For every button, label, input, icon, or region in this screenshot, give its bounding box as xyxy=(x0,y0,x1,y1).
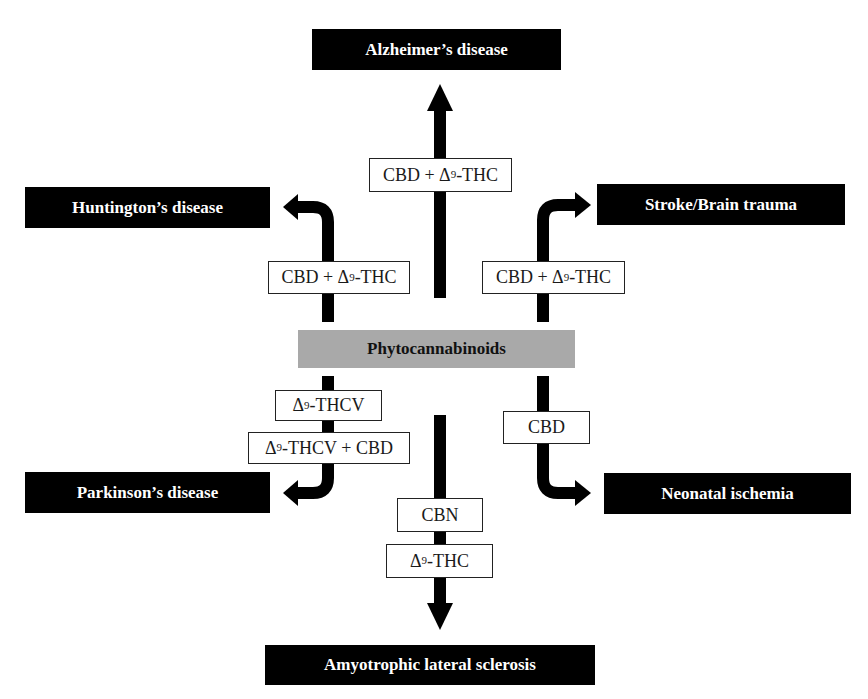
label-text: -THCV xyxy=(310,395,365,416)
arrow-huntingtons-icon xyxy=(283,194,328,322)
label-superscript: 9 xyxy=(277,441,283,453)
label-huntingtons-compound: CBD + Δ9-THC xyxy=(268,261,410,294)
label-text: -THC xyxy=(569,267,611,288)
label-text: Δ xyxy=(265,438,277,459)
label-text: -THCV + CBD xyxy=(282,438,393,459)
label-superscript: 9 xyxy=(564,271,570,283)
label-alzheimers-compound: CBD + Δ9-THC xyxy=(369,158,512,192)
label-text: -THC xyxy=(355,267,397,288)
label-text: CBD + Δ xyxy=(281,267,349,288)
label-superscript: 9 xyxy=(304,399,310,411)
arrow-stroke-icon xyxy=(543,192,591,322)
label-stroke-compound: CBD + Δ9-THC xyxy=(482,261,625,294)
label-text: Δ xyxy=(410,551,422,572)
disease-huntingtons: Huntington’s disease xyxy=(25,187,270,228)
label-text: CBD + Δ xyxy=(496,267,564,288)
disease-alzheimers: Alzheimer’s disease xyxy=(312,29,561,70)
label-text: -THC xyxy=(456,165,498,186)
label-superscript: 9 xyxy=(451,168,457,180)
label-text: CBD + Δ xyxy=(383,165,451,186)
label-als-compound-1: CBN xyxy=(397,498,483,532)
disease-neonatal: Neonatal ischemia xyxy=(604,473,851,514)
label-neonatal-compound: CBD xyxy=(503,411,590,444)
phytocannabinoid-diagram: Alzheimer’s disease Huntington’s disease… xyxy=(0,0,868,699)
center-phytocannabinoids: Phytocannabinoids xyxy=(298,330,575,368)
label-superscript: 9 xyxy=(349,271,355,283)
label-text: CBD xyxy=(528,417,565,438)
label-parkinsons-compound-2: Δ9-THCV + CBD xyxy=(248,432,410,464)
disease-stroke: Stroke/Brain trauma xyxy=(597,184,845,225)
disease-als: Amyotrophic lateral sclerosis xyxy=(265,645,595,685)
label-parkinsons-compound-1: Δ9-THCV xyxy=(275,390,382,421)
disease-parkinsons: Parkinson’s disease xyxy=(25,472,270,513)
label-superscript: 9 xyxy=(422,554,428,566)
label-text: -THC xyxy=(427,551,469,572)
label-text: Δ xyxy=(292,395,304,416)
label-als-compound-2: Δ9-THC xyxy=(386,544,493,578)
label-text: CBN xyxy=(421,505,458,526)
